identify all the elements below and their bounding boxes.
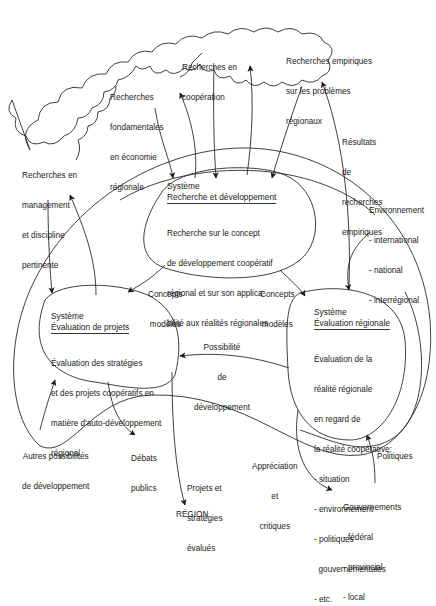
text-line: Recherches empiriques xyxy=(286,57,372,67)
text-line: Débats xyxy=(131,454,157,464)
appreciation-label: Appréciation et critiques xyxy=(252,442,298,542)
gouvernements-label: Gouvernements - fédéral - provincial - l… xyxy=(343,483,401,606)
text-line: Résultats xyxy=(342,138,383,148)
research-cloud-outline xyxy=(9,28,332,150)
text-line: de xyxy=(194,373,250,383)
text-line: et discipline xyxy=(22,231,77,241)
text-line: Recherches en xyxy=(22,171,77,181)
text-line: régionale xyxy=(110,183,164,193)
text-line: et xyxy=(252,492,298,502)
list-item: - fédéral xyxy=(343,533,401,543)
text-line: management xyxy=(22,201,77,211)
system-rd-body: Recherche sur le concept de développemen… xyxy=(167,209,273,339)
text-line: Environnement xyxy=(369,206,424,216)
text-line: Évaluation de la xyxy=(314,355,392,365)
list-item: - interrégional xyxy=(369,296,424,306)
text-line: sur les problèmes xyxy=(286,87,372,97)
text-line: Recherche sur le concept xyxy=(167,229,273,239)
text-line: et des projets coopératifs en xyxy=(51,389,161,399)
text-line: modèles xyxy=(260,320,295,330)
debats-label: Débats publics xyxy=(131,434,157,504)
text-line: Projets et xyxy=(187,484,223,494)
autres-possibilites-label: Autres possibilités de développement xyxy=(22,432,89,502)
text-line: matière d'auto-développement xyxy=(51,419,161,429)
text-line: Recherches en xyxy=(182,63,237,73)
concepts-left-label: Concepts modèles xyxy=(148,270,183,340)
cloud-management-label: Recherches en management et discipline p… xyxy=(22,151,77,281)
text-line: Concepts xyxy=(260,290,295,300)
system-title: Évaluation régionale xyxy=(314,318,390,331)
text-line: Gouvernements xyxy=(343,503,401,513)
cloud-cooperation-label: Recherches en coopération xyxy=(182,43,237,113)
system-label: Système xyxy=(167,181,276,192)
text-line: régional et sur son applica- xyxy=(167,289,273,299)
text-line: en regard de xyxy=(314,415,392,425)
possibilite-label: Possibilité de développement xyxy=(194,323,250,423)
list-item: - international xyxy=(369,236,424,246)
text-line: fondamentales xyxy=(110,123,164,133)
environnement-label: Environnement - international - national… xyxy=(369,186,424,316)
text-line: de développement coopératif xyxy=(167,259,273,269)
text-line: Appréciation xyxy=(252,462,298,472)
text-line: en économie xyxy=(110,153,164,163)
system-title: Recherche et développement xyxy=(167,192,276,205)
text-line: publics xyxy=(131,484,157,494)
system-projets-header: Système Évaluation de projets xyxy=(51,311,129,334)
list-item: - provincial xyxy=(343,563,401,573)
text-line: pertinente xyxy=(22,261,77,271)
text-line: coopération xyxy=(182,93,237,103)
text-line: Évaluation des stratégies xyxy=(51,359,161,369)
text-line: développement xyxy=(194,403,250,413)
list-item: - local xyxy=(343,593,401,603)
text-line: Possibilité xyxy=(194,343,250,353)
list-item: - national xyxy=(369,266,424,276)
text-line: Autres possibilités xyxy=(22,452,89,462)
text-line: réalité régionale xyxy=(314,385,392,395)
cloud-fondamentales-label: Recherches fondamentales en économie rég… xyxy=(110,73,164,203)
text-line: de développement xyxy=(22,482,89,492)
text-line: Concepts xyxy=(148,290,183,300)
concepts-right-label: Concepts modèles xyxy=(260,270,295,340)
text-line: de xyxy=(342,168,383,178)
politiques-label: Politiques xyxy=(377,452,413,462)
system-label: Système xyxy=(51,311,129,322)
text-line: critiques xyxy=(252,522,298,532)
region-label: RÉGION xyxy=(176,510,208,520)
system-title: Évaluation de projets xyxy=(51,322,129,335)
system-rd-header: Système Recherche et développement xyxy=(167,181,276,204)
text-line: Recherches xyxy=(110,93,164,103)
text-line: modèles xyxy=(148,320,183,330)
text-line: évalués xyxy=(187,544,223,554)
